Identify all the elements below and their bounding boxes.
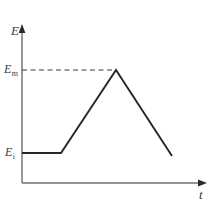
y-tick-ei-subscript: i: [13, 152, 15, 161]
y-tick-label-em: Em: [4, 63, 18, 75]
x-axis-arrowhead: [198, 180, 207, 187]
y-axis-label: E: [11, 24, 19, 37]
energy-curve: [22, 70, 172, 156]
y-tick-em-base: E: [4, 62, 11, 76]
y-tick-em-subscript: m: [12, 69, 18, 78]
chart-plot-area: [0, 0, 223, 212]
y-tick-ei-base: E: [5, 145, 12, 159]
y-tick-label-ei: Ei: [5, 146, 15, 158]
energy-vs-time-chart: E t Em Ei: [0, 0, 223, 212]
x-axis-label: t: [199, 188, 203, 201]
y-axis-arrowhead: [19, 24, 26, 33]
